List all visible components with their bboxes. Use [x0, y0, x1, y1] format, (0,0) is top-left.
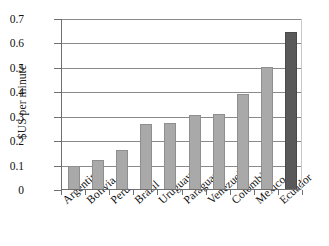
bar — [116, 150, 128, 190]
y-axis-title: $US per minute — [16, 37, 28, 167]
y-axis-tick-mark — [54, 68, 61, 69]
y-axis-tick-mark — [54, 43, 61, 44]
bar — [140, 124, 152, 190]
y-axis-tick-label: 0.2 — [0, 135, 24, 147]
bar-series — [62, 19, 301, 190]
y-axis-tick-label: 0.5 — [0, 62, 24, 74]
bar — [261, 67, 273, 190]
bar — [189, 115, 201, 190]
bar — [164, 123, 176, 190]
plot-area — [61, 19, 302, 190]
bar — [92, 160, 104, 190]
x-axis-line — [62, 189, 301, 190]
y-axis-tick-label: 0.3 — [0, 111, 24, 123]
y-axis-tick-mark — [54, 92, 61, 93]
y-axis-tick-mark — [54, 117, 61, 118]
y-axis-tick-mark — [54, 190, 61, 191]
y-axis-tick-mark — [54, 166, 61, 167]
bar — [285, 32, 297, 190]
y-axis-tick-mark — [54, 19, 61, 20]
y-axis-tick-label: 0.1 — [0, 160, 24, 172]
y-axis-tick-label: 0 — [0, 184, 24, 196]
y-axis-tick-label: 0.4 — [0, 86, 24, 98]
bar — [237, 94, 249, 190]
x-axis-tick-mark — [302, 190, 303, 195]
y-axis-tick-label: 0.7 — [0, 13, 24, 25]
bar — [213, 114, 225, 190]
bar — [68, 166, 80, 190]
y-axis-tick-label: 0.6 — [0, 37, 24, 49]
bar-chart: $US per minute 00.10.20.30.40.50.60.7 Ar… — [0, 0, 329, 246]
y-axis-tick-mark — [54, 141, 61, 142]
